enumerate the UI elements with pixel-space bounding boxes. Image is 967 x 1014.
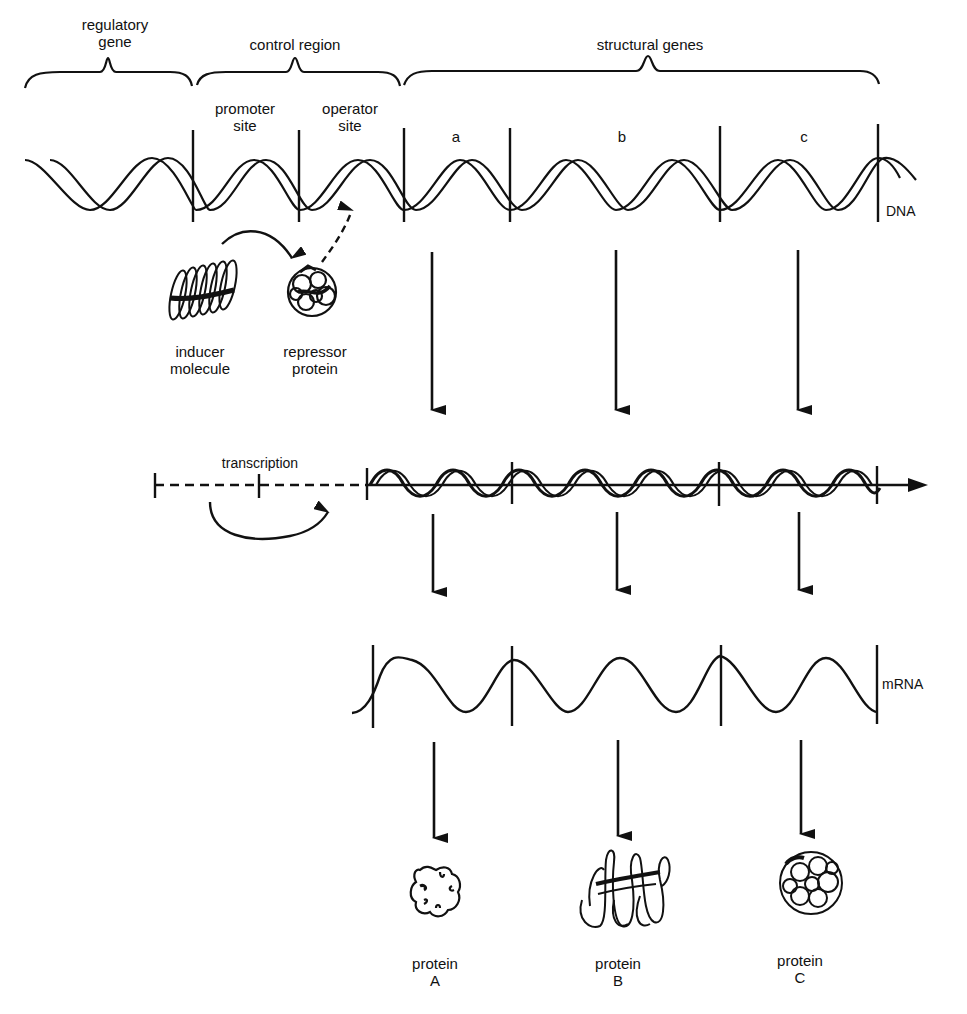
label-inducer-molecule: inducer molecule [150,343,250,377]
binding-arrow [222,231,292,258]
label-control-region: control region [215,36,375,53]
protein-a-globular-icon [411,867,460,916]
label-promoter-site: promoter site [200,100,290,134]
label-mrna: mRNA [882,676,932,693]
protein-c-dense-globular-icon [780,852,842,914]
transcription-to-mrna-arrows [433,512,799,592]
brace-control-region [197,58,400,86]
label-repressor-protein: repressor protein [265,343,365,377]
brace-structural-genes [404,56,879,85]
brace-regulatory-gene [25,58,192,88]
label-protein-a: protein A [400,955,470,989]
label-transcription: transcription [200,455,320,472]
gene-to-transcription-arrows [432,250,798,410]
inducer-molecule-icon [166,259,240,321]
label-gene-a: a [444,128,468,145]
repressor-protein-icon [288,266,336,316]
label-regulatory-gene: regulatory gene [60,16,170,50]
label-operator-site: operator site [305,100,395,134]
mrna-to-protein-arrows [434,740,801,838]
transcription-helix [370,470,880,496]
label-gene-b: b [610,128,634,145]
transcription-track [155,462,928,539]
dna-double-helix [25,158,916,210]
label-structural-genes: structural genes [560,36,740,53]
label-protein-c: protein C [765,952,835,986]
label-gene-c: c [792,128,816,145]
repressor-to-operator-arrow [322,210,352,262]
label-protein-b: protein B [583,955,653,989]
protein-b-fibrous-icon [581,850,670,926]
mrna-strand [352,645,878,728]
label-dna: DNA [886,203,926,220]
gene-regulation-diagram [0,0,967,1014]
